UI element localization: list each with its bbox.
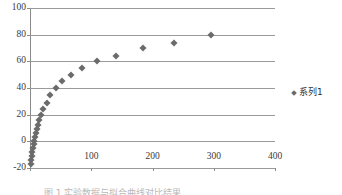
data-point [112, 52, 119, 59]
y-tick-label: 40 [0, 83, 26, 93]
y-tick-label: 20 [0, 110, 26, 120]
y-tick-label: 60 [0, 56, 26, 66]
data-point [140, 44, 147, 51]
data-point [170, 39, 177, 46]
plot-area [30, 8, 275, 168]
data-point [207, 31, 214, 38]
y-tick-label: 100 [0, 3, 26, 13]
x-tick-mark [275, 168, 276, 171]
grid-line [30, 61, 275, 62]
data-point [47, 91, 54, 98]
grid-line [30, 8, 275, 9]
legend-entry-label: 系列1 [299, 88, 323, 97]
figure-caption: 图 1 实验数据与拟合曲线对比结果 [44, 187, 306, 195]
grid-line [30, 141, 275, 142]
data-point [67, 71, 74, 78]
scatter-chart: -20020406080100 100200300400 系列1 图 1 实验数… [0, 0, 342, 195]
data-point [52, 84, 59, 91]
grid-line [30, 35, 275, 36]
y-tick-label: -20 [0, 163, 26, 173]
chart-legend: 系列1 [292, 88, 323, 97]
grid-line [30, 115, 275, 116]
y-tick-label: 80 [0, 30, 26, 40]
data-point [59, 78, 66, 85]
data-point [94, 58, 101, 65]
data-point [79, 64, 86, 71]
grid-line [30, 88, 275, 89]
grid-line [30, 168, 275, 169]
diamond-marker-icon [291, 90, 297, 96]
data-point [43, 99, 50, 106]
y-tick-label: 0 [0, 136, 26, 146]
